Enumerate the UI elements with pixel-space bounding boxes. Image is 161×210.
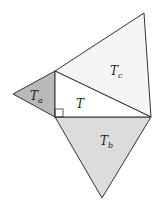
- triangle-diagram: Tc Ta T Tb: [0, 0, 161, 210]
- label-t: T: [76, 97, 85, 111]
- triangle-tb: [55, 117, 151, 198]
